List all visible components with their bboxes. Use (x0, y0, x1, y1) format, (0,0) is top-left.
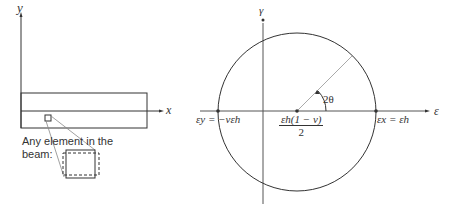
center-label-denominator: 2 (279, 126, 323, 138)
epsilon-axis-label: ε (434, 104, 439, 119)
angle-label: 2θ (323, 93, 334, 105)
beam-y-axis-label: y (17, 0, 23, 16)
beam-x-arrow-icon (159, 110, 164, 113)
caption-line-1: Any element in the (22, 134, 113, 148)
beam-x-axis-label: x (166, 103, 171, 118)
diagram-canvas (0, 0, 459, 212)
element-original-square (66, 150, 95, 178)
beam-element-marker (45, 115, 51, 121)
epsilon-axis-arrow-icon (425, 110, 430, 113)
center-label-numerator: εh(1 − ν) (279, 113, 323, 126)
center-label: εh(1 − ν) 2 (279, 113, 323, 138)
gamma-axis-label: γ (259, 4, 263, 16)
caption-line-2: beam: (22, 147, 53, 161)
mohr-circle-diagram (200, 19, 430, 205)
gamma-axis-arrow-icon (262, 19, 265, 22)
epsilon-x-label: εx = εh (377, 113, 409, 125)
epsilon-y-label: εy = −νεh (196, 113, 240, 125)
